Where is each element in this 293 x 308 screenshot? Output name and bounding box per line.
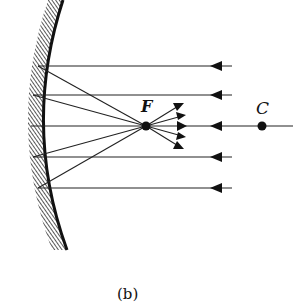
center-of-curvature-dot [258, 122, 267, 131]
concave-mirror [28, 0, 67, 250]
arrow-left-icon [210, 121, 222, 131]
arrow-left-icon [210, 61, 222, 71]
arrow-left-icon [210, 183, 222, 193]
reflected-ray-2 [33, 95, 146, 126]
ray-diagram: F C (b) [0, 0, 293, 308]
diverging-ray-4 [146, 126, 182, 136]
arrow-left-icon [210, 90, 222, 100]
focal-point-label: F [140, 97, 154, 116]
incident-arrowheads [210, 61, 222, 193]
mirror-hatching [28, 0, 67, 250]
arrow-icon [173, 141, 184, 149]
arrow-left-icon [210, 152, 222, 162]
reflected-ray-4 [33, 126, 146, 157]
focal-point-dot [142, 122, 151, 131]
diverging-ray-5 [146, 126, 180, 147]
arrow-right-icon [177, 121, 187, 131]
arrow-icon [176, 132, 186, 140]
arrow-icon [176, 112, 186, 120]
reflected-rays [33, 66, 146, 188]
arrow-icon [173, 103, 184, 111]
reflected-ray-1 [38, 66, 146, 126]
center-of-curvature-label: C [256, 98, 269, 118]
figure-caption: (b) [117, 285, 138, 303]
diverging-ray-2 [146, 116, 182, 126]
